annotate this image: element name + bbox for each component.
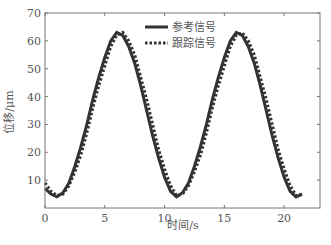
svg-text:40: 40 xyxy=(27,91,41,104)
legend: 参考信号 跟踪信号 xyxy=(145,20,216,50)
legend-track-label: 跟踪信号 xyxy=(172,36,216,50)
svg-text:60: 60 xyxy=(27,35,41,48)
svg-text:20: 20 xyxy=(277,212,291,225)
svg-text:70: 70 xyxy=(27,7,41,20)
svg-text:50: 50 xyxy=(27,63,41,76)
svg-text:0: 0 xyxy=(42,212,49,225)
y-axis-label: 位移/μm xyxy=(2,90,16,134)
svg-text:10: 10 xyxy=(27,174,41,187)
svg-text:5: 5 xyxy=(101,212,108,225)
legend-ref-label: 参考信号 xyxy=(172,20,216,34)
reference-signal-line xyxy=(45,33,302,197)
tracking-signal-line xyxy=(45,33,302,196)
x-axis-label: 时间/s xyxy=(167,219,199,232)
svg-text:15: 15 xyxy=(217,212,231,225)
chart: 0510152010203040506070 参考信号 跟踪信号 时间/s 位移… xyxy=(0,0,331,245)
svg-text:20: 20 xyxy=(27,146,41,159)
svg-text:30: 30 xyxy=(27,118,41,131)
